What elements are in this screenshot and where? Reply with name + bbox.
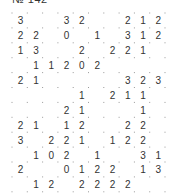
grid-dot: [57, 42, 58, 43]
cell-clue[interactable]: 2: [49, 135, 55, 146]
cell-clue[interactable]: 1: [140, 15, 146, 26]
cell-clue[interactable]: 2: [110, 45, 116, 56]
cell-clue[interactable]: 3: [18, 15, 24, 26]
cell-clue[interactable]: 3: [156, 75, 162, 86]
grid-dot: [42, 72, 43, 73]
cell-clue[interactable]: 1: [33, 179, 39, 190]
cell-clue[interactable]: 2: [79, 179, 85, 190]
cell-clue[interactable]: 2: [79, 15, 85, 26]
grid-dot: [149, 87, 150, 88]
grid-dot: [88, 72, 89, 73]
cell-clue[interactable]: 2: [110, 90, 116, 101]
cell-clue[interactable]: 2: [125, 120, 131, 131]
cell-clue[interactable]: 1: [94, 30, 100, 41]
cell-clue[interactable]: 1: [156, 150, 162, 161]
cell-clue[interactable]: 0: [79, 60, 85, 71]
cell-clue[interactable]: 2: [79, 120, 85, 131]
grid-dot: [88, 162, 89, 163]
grid-dot: [57, 13, 58, 14]
grid-dot: [119, 57, 120, 58]
puzzle-grid[interactable]: 3322122201312132221112022132312112112112…: [0, 0, 172, 195]
cell-clue[interactable]: 1: [110, 135, 116, 146]
cell-clue[interactable]: 1: [79, 164, 85, 175]
grid-dot: [165, 117, 166, 118]
grid-dot: [165, 176, 166, 177]
cell-clue[interactable]: 1: [94, 150, 100, 161]
cell-clue[interactable]: 1: [140, 90, 146, 101]
grid-dot: [88, 176, 89, 177]
grid-dot: [73, 176, 74, 177]
cell-clue[interactable]: 1: [140, 105, 146, 116]
cell-clue[interactable]: 2: [79, 45, 85, 56]
cell-clue[interactable]: 3: [33, 45, 39, 56]
grid-dot: [42, 57, 43, 58]
cell-clue[interactable]: 1: [33, 75, 39, 86]
cell-clue[interactable]: 1: [64, 120, 70, 131]
grid-dot: [27, 132, 28, 133]
grid-dot: [103, 87, 104, 88]
cell-clue[interactable]: 1: [79, 105, 85, 116]
cell-clue[interactable]: 2: [110, 179, 116, 190]
cell-clue[interactable]: 2: [18, 75, 24, 86]
grid-dot: [103, 162, 104, 163]
cell-clue[interactable]: 1: [140, 30, 146, 41]
cell-clue[interactable]: 2: [49, 179, 55, 190]
cell-clue[interactable]: 2: [156, 30, 162, 41]
cell-clue[interactable]: 2: [18, 120, 24, 131]
grid-dot: [27, 176, 28, 177]
cell-clue[interactable]: 2: [33, 30, 39, 41]
cell-clue[interactable]: 2: [64, 105, 70, 116]
cell-clue[interactable]: 2: [140, 75, 146, 86]
cell-clue[interactable]: 2: [125, 179, 131, 190]
grid-dot: [165, 147, 166, 148]
grid-dot: [73, 13, 74, 14]
cell-clue[interactable]: 1: [140, 45, 146, 56]
cell-clue[interactable]: 2: [156, 15, 162, 26]
cell-clue[interactable]: 2: [94, 164, 100, 175]
cell-clue[interactable]: 2: [125, 45, 131, 56]
grid-dot: [12, 191, 13, 192]
cell-clue[interactable]: 1: [49, 60, 55, 71]
cell-clue[interactable]: 2: [140, 135, 146, 146]
grid-dot: [119, 87, 120, 88]
cell-clue[interactable]: 0: [49, 150, 55, 161]
cell-clue[interactable]: 2: [110, 164, 116, 175]
grid-dot: [42, 147, 43, 148]
cell-clue[interactable]: 0: [64, 30, 70, 41]
grid-dot: [165, 57, 166, 58]
grid-dot: [12, 132, 13, 133]
cell-clue[interactable]: 2: [140, 120, 146, 131]
cell-clue[interactable]: 1: [33, 150, 39, 161]
cell-clue[interactable]: 0: [64, 164, 70, 175]
cell-clue[interactable]: 1: [125, 90, 131, 101]
grid-dot: [57, 147, 58, 148]
cell-clue[interactable]: 2: [94, 179, 100, 190]
cell-clue[interactable]: 3: [156, 164, 162, 175]
grid-dot: [12, 87, 13, 88]
cell-clue[interactable]: 3: [64, 15, 70, 26]
grid-dot: [134, 13, 135, 14]
cell-clue[interactable]: 2: [18, 30, 24, 41]
cell-clue[interactable]: 1: [140, 164, 146, 175]
cell-clue[interactable]: 1: [79, 90, 85, 101]
cell-clue[interactable]: 2: [125, 135, 131, 146]
grid-dot: [42, 13, 43, 14]
cell-clue[interactable]: 2: [125, 15, 131, 26]
cell-clue[interactable]: 2: [64, 135, 70, 146]
cell-numbers: 3322122201312132221112022132312112112112…: [18, 15, 162, 190]
grid-dot: [27, 102, 28, 103]
cell-clue[interactable]: 3: [140, 150, 146, 161]
grid-dot: [103, 42, 104, 43]
cell-clue[interactable]: 1: [18, 45, 24, 56]
cell-clue[interactable]: 2: [18, 164, 24, 175]
cell-clue[interactable]: 3: [18, 135, 24, 146]
cell-clue[interactable]: 2: [94, 60, 100, 71]
cell-clue[interactable]: 2: [64, 150, 70, 161]
cell-clue[interactable]: 1: [33, 60, 39, 71]
cell-clue[interactable]: 1: [79, 135, 85, 146]
cell-clue[interactable]: 3: [125, 75, 131, 86]
grid-dot: [12, 57, 13, 58]
cell-clue[interactable]: 1: [33, 120, 39, 131]
cell-clue[interactable]: 2: [64, 60, 70, 71]
cell-clue[interactable]: 3: [125, 30, 131, 41]
